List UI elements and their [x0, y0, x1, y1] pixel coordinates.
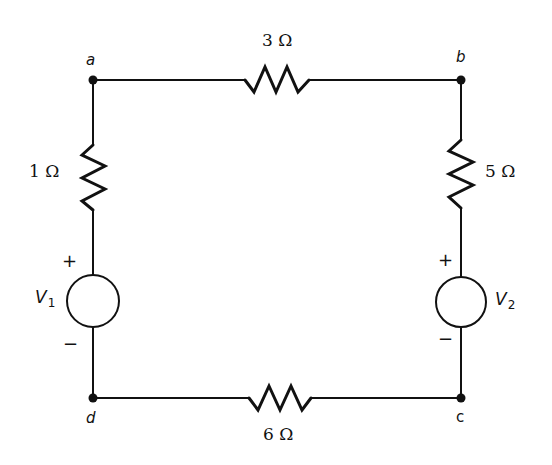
source-label-v1: V1 — [35, 289, 55, 309]
circuit-schematic — [0, 0, 552, 465]
resistor-5ohm — [449, 140, 473, 208]
source-label-v2: V2 — [495, 291, 515, 311]
voltage-source-v2 — [436, 277, 486, 327]
v1-minus-sign: − — [63, 335, 78, 353]
resistor-label-1ohm: 1 Ω — [29, 163, 59, 180]
v1-plus-sign: + — [62, 252, 77, 270]
circuit-diagram: a b c d 3 Ω 5 Ω 6 Ω 1 Ω V1 + − V2 + − — [0, 0, 552, 465]
node-dot-b — [457, 76, 466, 85]
source-name-v1: V — [35, 287, 47, 307]
resistor-3ohm — [245, 67, 309, 92]
resistor-label-5ohm: 5 Ω — [485, 163, 515, 180]
resistor-label-6ohm: 6 Ω — [263, 426, 293, 443]
v2-plus-sign: + — [438, 251, 453, 269]
resistor-1ohm — [82, 145, 105, 210]
node-dot-d — [89, 394, 98, 403]
resistor-6ohm — [249, 386, 311, 410]
v2-minus-sign: − — [438, 330, 453, 348]
node-label-b: b — [456, 50, 466, 65]
node-label-d: d — [86, 411, 96, 426]
node-label-c: c — [456, 410, 464, 425]
source-subscript-v2: 2 — [508, 298, 516, 312]
source-subscript-v1: 1 — [48, 296, 56, 310]
voltage-source-v1 — [67, 275, 119, 327]
node-dot-c — [457, 394, 466, 403]
resistor-label-3ohm: 3 Ω — [262, 32, 292, 49]
source-name-v2: V — [495, 289, 507, 309]
node-dot-a — [89, 76, 98, 85]
node-label-a: a — [86, 53, 95, 68]
